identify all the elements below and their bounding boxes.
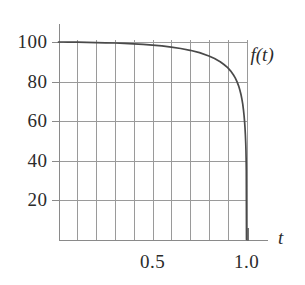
x-tick-label: 0.5	[113, 252, 193, 271]
y-axis-label: f(t)	[251, 45, 274, 64]
vertical-gridlines	[78, 40, 248, 240]
y-tick-label: 60	[28, 111, 48, 130]
x-axis-label: t	[278, 228, 283, 247]
y-tick-label: 100	[18, 32, 48, 51]
y-tick-label: 80	[28, 72, 48, 91]
chart-figure: 204060801000.51.0 f(t) t	[0, 0, 305, 285]
y-tick-label: 40	[28, 151, 48, 170]
axis-tick-marks	[52, 43, 248, 241]
axis-lines	[60, 24, 269, 241]
y-tick-label: 20	[28, 190, 48, 209]
series-line	[59, 42, 247, 240]
data-series	[59, 42, 247, 240]
x-tick-label: 1.0	[207, 252, 287, 271]
